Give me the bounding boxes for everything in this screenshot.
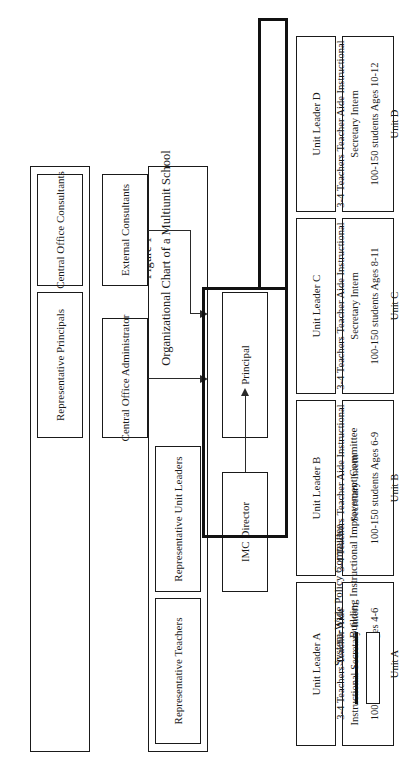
unit-b-students: 100-150 students <box>369 472 380 544</box>
node-external-consultants[interactable]: External Consultants <box>102 174 148 286</box>
unit-a-footer: Unit A <box>389 650 400 678</box>
representative-principals-line2: Principals <box>54 309 66 353</box>
spacer <box>381 37 388 211</box>
unit-leader-d-box[interactable]: Unit Leader D <box>296 36 336 212</box>
biic-outline-top-edge <box>202 288 205 538</box>
unit-d-box[interactable]: 3-4 Teachers Teacher Aide Instructional … <box>342 36 394 212</box>
unit-c-staff-3: Secretary <box>349 300 360 340</box>
legend-label-system-wide-committee: System-Wide Policy Committee <box>332 524 344 666</box>
node-representative-teachers[interactable]: Representative Teachers <box>155 598 201 744</box>
unit-d-staff-1: Teacher Aide <box>335 96 346 152</box>
line-coa-to-principal <box>148 378 202 379</box>
representative-unit-leaders-line1: Representative <box>172 516 184 581</box>
biic-outline-mid-left <box>258 535 288 538</box>
unit-c-staff-4: Intern <box>349 272 360 297</box>
imc-director-line2: Director <box>239 502 251 539</box>
principal-label: Principal <box>239 345 252 385</box>
representative-teachers-line1: Representative <box>172 659 184 724</box>
unit-c-staff-1: Teacher Aide <box>335 278 346 334</box>
biic-outline-right-edge <box>258 18 288 21</box>
legend-label-system-wide-committee-wrap: System-Wide Policy Committee <box>332 366 350 666</box>
central-office-administrator-line2: Administrator <box>119 315 131 377</box>
spacer <box>381 401 388 575</box>
unit-leader-c-label: Unit Leader C <box>310 275 323 338</box>
line-extconsult-down <box>148 230 190 231</box>
unit-d-staff-4: Intern <box>349 90 360 115</box>
biic-outline-left-edge <box>202 535 260 538</box>
external-consultants-line2: Consultants <box>119 184 131 236</box>
unit-leader-b-box[interactable]: Unit Leader B <box>296 400 336 576</box>
node-representative-principals[interactable]: Representative Principals <box>37 292 83 438</box>
line-extconsult-across <box>190 230 191 314</box>
central-office-consultants-line2: Consultants <box>54 171 66 223</box>
unit-d-students: 100-150 students <box>369 113 380 185</box>
unit-d-ages: Ages 10-12 <box>369 63 380 112</box>
unit-c-staff-2: Instructional <box>335 222 346 275</box>
spacer <box>361 37 368 211</box>
unit-leader-d-label: Unit Leader D <box>310 92 323 156</box>
unit-d-staff-2: Instructional <box>335 40 346 93</box>
unit-c-ages: Ages 8-11 <box>369 247 380 290</box>
node-central-office-administrator[interactable]: Central Office Administrator <box>102 318 148 438</box>
representative-teachers-line2: Teachers <box>172 618 184 657</box>
unit-b-ages: Ages 6-9 <box>369 432 380 470</box>
biic-outline-unitleader-top <box>202 287 288 290</box>
unit-d-staff-3: Secretary <box>349 118 360 158</box>
spacer <box>381 219 388 393</box>
legend-swatch-building-committee <box>355 632 358 704</box>
unit-leader-a-box[interactable]: Unit Leader A <box>296 582 336 746</box>
biic-outline-far-top-edge <box>258 18 261 290</box>
node-representative-unit-leaders[interactable]: Representative Unit Leaders <box>155 446 201 592</box>
node-imc-director[interactable]: IMC Director <box>222 472 268 592</box>
unit-d-footer: Unit D <box>389 110 400 139</box>
biic-outline-bottom-edge <box>285 18 288 538</box>
node-central-office-consultants[interactable]: Central Office Consultants <box>37 174 83 286</box>
central-office-administrator-line1: Central Office <box>119 378 131 441</box>
unit-c-footer: Unit C <box>389 292 400 320</box>
unit-leader-a-label: Unit Leader A <box>310 633 323 696</box>
legend-swatch-system-wide-committee <box>366 632 380 704</box>
unit-leader-c-box[interactable]: Unit Leader C <box>296 218 336 394</box>
central-office-consultants-line1: Central Office <box>54 226 66 289</box>
unit-d-staff-0: 3-4 Teachers <box>335 154 346 208</box>
representative-principals-line1: Representative <box>54 356 66 421</box>
unit-leader-b-label: Unit Leader B <box>310 457 323 520</box>
spacer <box>381 583 388 745</box>
line-imc-to-spine <box>245 394 246 472</box>
unit-a-staff-0: 3-4 Teachers <box>335 666 346 720</box>
representative-unit-leaders-line2: Unit Leaders <box>172 456 184 513</box>
external-consultants-line1: External <box>119 239 131 276</box>
unit-b-footer: Unit B <box>389 474 400 502</box>
unit-c-students: 100-150 students <box>369 293 380 365</box>
arrow-imc-to-principal <box>241 388 249 396</box>
imc-director-line1: IMC <box>239 541 251 562</box>
